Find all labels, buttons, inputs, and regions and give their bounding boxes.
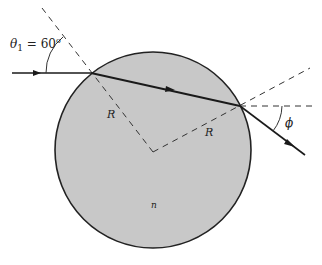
incident-ray-arrow-icon (33, 70, 41, 76)
phi-angle-arc (273, 106, 282, 131)
radius-label-right: R (204, 126, 213, 139)
theta1-label: θ1 = 60o (10, 36, 61, 53)
refraction-diagram: θ1 = 60o R R n ϕ (0, 0, 322, 265)
refractive-index-label: n (151, 200, 157, 210)
sphere (55, 52, 251, 248)
phi-label: ϕ (285, 116, 293, 130)
radius-label-left: R (106, 108, 115, 121)
